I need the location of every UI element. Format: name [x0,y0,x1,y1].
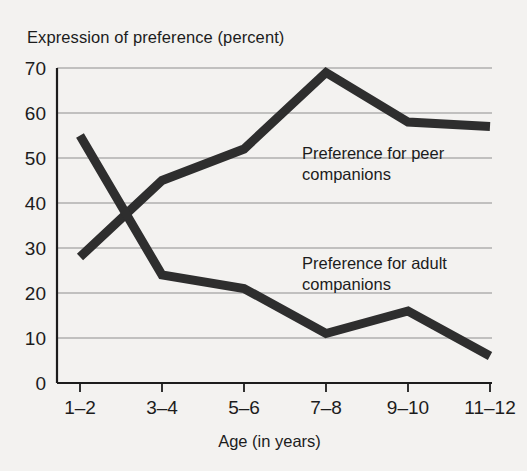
y-axis-tick-label: 20 [25,283,46,304]
annotation-peer-companions: Preference for peer companions [302,143,444,185]
y-axis-tick-label: 10 [25,328,46,349]
y-axis-tick-label: 70 [25,58,46,79]
annotation-adult-line2: companions [302,274,447,295]
annotation-peer-line2: companions [302,164,444,185]
annotation-adult-companions: Preference for adult companions [302,253,447,295]
annotation-adult-line1: Preference for adult [302,253,447,274]
y-axis-tick-label: 30 [25,238,46,259]
x-axis-tick-label: 11–12 [464,397,515,418]
x-axis-tick-label: 9–10 [387,397,429,418]
x-axis-tick-label: 3–4 [146,397,178,418]
chart-figure: Expression of preference (percent) 01020… [0,0,527,471]
x-axis-title: Age (in years) [6,432,527,451]
x-axis-tick-labels: 1–23–45–67–89–1011–12 [64,397,516,418]
y-axis-tick-label: 40 [25,193,46,214]
x-axis-tick-label: 7–8 [310,397,342,418]
data-series-lines [80,73,490,357]
y-axis-tick-labels: 010203040506070 [25,58,46,394]
y-axis-tick-label: 50 [25,148,46,169]
x-axis-tick-label: 5–6 [228,397,260,418]
y-axis-tick-label: 60 [25,103,46,124]
y-axis-tick-label: 0 [35,373,46,394]
x-axis-ticks [80,383,490,392]
chart-plot-area: 010203040506070 1–23–45–67–89–1011–12 [0,0,527,471]
annotation-peer-line1: Preference for peer [302,143,444,164]
x-axis-tick-label: 1–2 [64,397,96,418]
